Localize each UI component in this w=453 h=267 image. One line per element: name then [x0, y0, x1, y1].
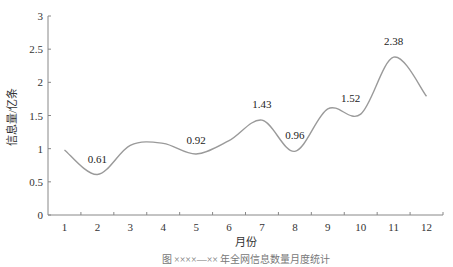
data-point-label: 0.96: [285, 129, 305, 141]
y-axis-title: 信息量/亿条: [5, 88, 18, 146]
y-tick-label: 1.5: [29, 110, 43, 122]
line-chart: 00.511.522.53 123456789101112 0.610.921.…: [0, 0, 453, 267]
data-point-label: 2.38: [384, 35, 404, 47]
x-tick-label: 4: [160, 221, 166, 233]
x-tick-label: 8: [292, 221, 298, 233]
y-tick-label: 0.5: [29, 176, 43, 188]
y-tick-label: 2: [38, 76, 44, 88]
y-tick-label: 1: [38, 143, 44, 155]
x-tick-label: 3: [128, 221, 134, 233]
y-tick-label: 3: [38, 10, 44, 22]
x-tick-label: 6: [226, 221, 232, 233]
data-labels: 0.610.921.430.961.522.38: [88, 35, 404, 164]
data-point-label: 0.61: [88, 153, 107, 165]
x-tick-label: 5: [193, 221, 199, 233]
y-tick-label: 0: [38, 209, 44, 221]
data-point-label: 1.43: [252, 98, 272, 110]
x-tick-label: 10: [355, 221, 367, 233]
x-axis: 123456789101112: [48, 212, 443, 233]
x-tick-label: 2: [95, 221, 101, 233]
y-axis: 00.511.522.53: [29, 10, 51, 221]
data-point-label: 1.52: [341, 92, 360, 104]
x-tick-label: 12: [421, 221, 432, 233]
x-tick-label: 9: [325, 221, 331, 233]
figure-caption: 图 ××××—×× 年全网信息数量月度统计: [162, 253, 331, 265]
x-tick-label: 7: [259, 221, 265, 233]
data-line: [64, 57, 426, 175]
data-point-label: 0.92: [187, 134, 206, 146]
x-tick-label: 1: [62, 221, 68, 233]
y-tick-label: 2.5: [29, 43, 43, 55]
x-tick-label: 11: [388, 221, 399, 233]
x-axis-title: 月份: [235, 236, 257, 248]
